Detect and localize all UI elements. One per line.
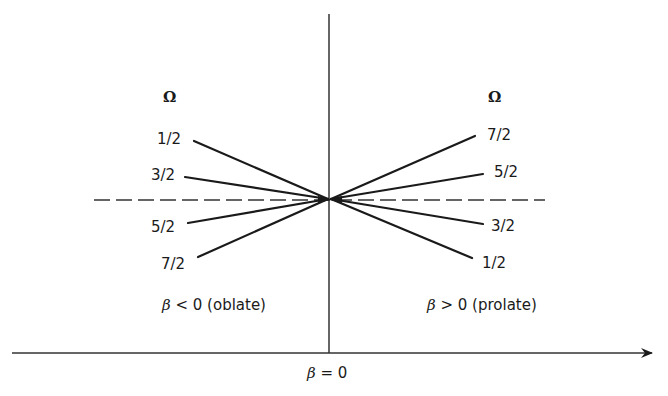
diagram-canvas [0, 0, 668, 396]
oblate-region-label: β < 0 (oblate) [162, 298, 266, 313]
prolate-text: > 0 (prolate) [440, 296, 536, 314]
right-omega-header: Ω [488, 90, 501, 105]
left-label-1: 1/2 [157, 132, 181, 147]
convergence-point [318, 196, 342, 203]
beta-symbol: β [162, 296, 171, 314]
oblate-text: < 0 (oblate) [175, 296, 266, 314]
left-label-2: 3/2 [151, 168, 175, 183]
right-label-2: 5/2 [494, 165, 518, 180]
prolate-region-label: β > 0 (prolate) [427, 298, 537, 313]
right-label-4: 1/2 [482, 256, 506, 271]
axis-label: β = 0 [307, 366, 347, 381]
oblate-lines [185, 141, 328, 257]
left-omega-header: Ω [163, 90, 176, 105]
beta-symbol: β [427, 296, 436, 314]
prolate-lines [331, 136, 483, 258]
right-label-3: 3/2 [491, 219, 515, 234]
axis-label-text: = 0 [320, 364, 347, 382]
right-label-1: 7/2 [487, 128, 511, 143]
beta-symbol: β [307, 364, 316, 382]
left-label-4: 7/2 [161, 257, 185, 272]
left-label-3: 5/2 [151, 220, 175, 235]
